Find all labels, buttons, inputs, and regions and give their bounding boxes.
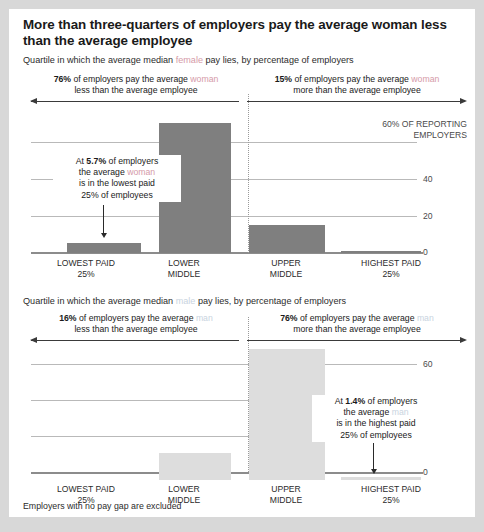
- panel-1-xlabel-highest-paid: HIGHEST PAID 25%: [339, 258, 443, 280]
- panel-1-left-arrow-caption: 76% of employers pay the average woman l…: [31, 74, 241, 96]
- panel-2-bar-lower-middle: [159, 453, 231, 480]
- panel-1-left-arrowhead-icon: [30, 98, 37, 104]
- panel-1-callout-l1-pre: At: [76, 156, 87, 166]
- panel-1-xlabel-highest-paid-l2: 25%: [339, 269, 443, 280]
- panel-2-right-arrow-line1: 76% of employers pay the average man: [247, 313, 467, 324]
- panel-1-bar-upper-middle: [249, 225, 325, 253]
- panel-2-caption-pre: Quartile in which the average median: [23, 296, 176, 306]
- panel-1-callout-l2-keyword: woman: [127, 167, 155, 177]
- panel-1-callout-line2: the average woman: [56, 167, 178, 178]
- panel-1-left-pct: 76%: [54, 74, 71, 84]
- panel-2-callout-line3: is in the highest paid: [315, 418, 437, 429]
- panel-2-left-rest: of employers pay the average: [77, 313, 196, 323]
- panel-2-left-keyword: man: [196, 313, 213, 323]
- panel-1-caption-post: pay lies, by percentage of employers: [203, 55, 354, 65]
- panel-1-left-keyword: woman: [190, 74, 218, 84]
- panel-1-left-rest: of employers pay the average: [71, 74, 190, 84]
- panel-1-right-arrow-caption: 15% of employers pay the average woman m…: [247, 74, 467, 96]
- panel-2-callout-l2-pre: the average: [343, 407, 391, 417]
- panel-1-bar-highest-paid: [341, 251, 421, 254]
- panel-1-callout-line4: 25% of employees: [56, 190, 178, 201]
- panel-1-right-arrow-line1: 15% of employers pay the average woman: [247, 74, 467, 85]
- panel-1-right-arrow-line: [247, 101, 461, 102]
- panel-1-right-rest: of employers pay the average: [292, 74, 411, 84]
- panel-2-bar-highest-paid: [341, 477, 421, 480]
- panel-2-ytick-0: 0: [423, 467, 428, 477]
- panel-1-xlabel-upper-middle-l2: MIDDLE: [241, 269, 331, 280]
- panel-2-xlabel-highest-paid-l1: HIGHEST PAID: [339, 484, 443, 495]
- panel-2-gridline-60: [31, 364, 417, 365]
- panel-1-xlabel-lower-middle-l2: MIDDLE: [139, 269, 229, 280]
- panel-2-right-arrow-line2: more than the average employee: [247, 324, 467, 335]
- panel-1-callout: At 5.7% of employers the average woman i…: [53, 155, 181, 202]
- panel-2-caption: Quartile in which the average median mal…: [23, 296, 469, 306]
- panel-2-callout: At 1.4% of employers the average man is …: [312, 395, 440, 442]
- panel-1-callout-l1-bold: 5.7%: [86, 156, 106, 166]
- page-title: More than three-quarters of employers pa…: [23, 17, 463, 48]
- panel-2-callout-line1: At 1.4% of employers: [315, 396, 437, 407]
- panel-2-right-pct: 76%: [280, 313, 297, 323]
- panel-1-ytick-0: 0: [423, 247, 428, 257]
- panel-2-callout-line2: the average man: [315, 407, 437, 418]
- panel-1-caption-keyword: female: [176, 55, 203, 65]
- panel-2-caption-post: pay lies, by percentage of employers: [195, 296, 346, 306]
- panel-2-xlabel-lowest-paid-l1: LOWEST PAID: [31, 484, 141, 495]
- panel-2-caption-keyword: male: [176, 296, 196, 306]
- panel-2-left-pct: 16%: [59, 313, 76, 323]
- panel-2-callout-arrow-line: [373, 443, 374, 470]
- panel-1-left-arrow-line: [31, 101, 239, 102]
- panel-1-callout-line1: At 5.7% of employers: [56, 156, 178, 167]
- panel-2-callout-arrowhead-icon: [371, 469, 377, 474]
- panel-2-left-arrow-line1: 16% of employers pay the average man: [31, 313, 241, 324]
- panel-2-left-arrow-caption: 16% of employers pay the average man les…: [31, 313, 241, 335]
- panel-2-xlabel-upper-middle: UPPER MIDDLE: [241, 484, 331, 506]
- panel-1-left-arrow-line1: 76% of employers pay the average woman: [31, 74, 241, 85]
- panel-2-callout-line4: 25% of employees: [315, 430, 437, 441]
- panel-1-xlabel-upper-middle-l1: UPPER: [241, 258, 331, 269]
- panel-1-xlabel-lowest-paid-l2: 25%: [31, 269, 141, 280]
- panel-1-callout-arrow-line: [103, 205, 104, 234]
- panel-2-callout-l1-pre: At: [335, 396, 346, 406]
- panel-1-right-arrow-line2: more than the average employee: [247, 85, 467, 96]
- panel-1-xlabel-lower-middle-l1: LOWER: [139, 258, 229, 269]
- chart-card: More than three-quarters of employers pa…: [9, 9, 475, 517]
- panel-1-right-pct: 15%: [275, 74, 292, 84]
- footnote: Employers with no pay gap are excluded: [23, 501, 181, 511]
- panel-1-caption-pre: Quartile in which the average median: [23, 55, 176, 65]
- panel-1-callout-arrowhead-icon: [101, 233, 107, 238]
- panel-1-xlabel-upper-middle: UPPER MIDDLE: [241, 258, 331, 280]
- panel-1-xlabel-highest-paid-l1: HIGHEST PAID: [339, 258, 443, 269]
- panel-1-right-arrowhead-icon: [460, 98, 467, 104]
- panel-2-right-arrow-caption: 76% of employers pay the average man mor…: [247, 313, 467, 335]
- panel-1-ytick-40: 40: [423, 174, 433, 184]
- panel-1-caption: Quartile in which the average median fem…: [23, 55, 469, 65]
- panel-2-right-arrowhead-icon: [460, 337, 467, 343]
- panel-2-ytick-60: 60: [423, 359, 433, 369]
- panel-1-xlabel-lowest-paid-l1: LOWEST PAID: [31, 258, 141, 269]
- panel-2-right-keyword: man: [417, 313, 434, 323]
- panel-2-left-arrow-line2: less than the average employee: [31, 324, 241, 335]
- panel-2-xlabel-upper-middle-l2: MIDDLE: [241, 495, 331, 506]
- panel-2-xlabel-highest-paid-l2: 25%: [339, 495, 443, 506]
- panel-2-callout-l2-keyword: man: [392, 407, 409, 417]
- panel-2-callout-l1-bold: 1.4%: [345, 396, 365, 406]
- panel-1-xlabel-lower-middle: LOWER MIDDLE: [139, 258, 229, 280]
- panel-1-callout-l1-post: of employers: [106, 156, 158, 166]
- panel-2-xlabel-lower-middle-l1: LOWER: [139, 484, 229, 495]
- panel-1-left-arrow-line2: less than the average employee: [31, 85, 241, 96]
- panel-1-ytick-20: 20: [423, 211, 433, 221]
- panel-1-bar-lowest-paid: [67, 243, 141, 253]
- panel-1-right-keyword: woman: [411, 74, 439, 84]
- panel-1-callout-l2-pre: the average: [79, 167, 127, 177]
- panel-1-xlabel-lowest-paid: LOWEST PAID 25%: [31, 258, 141, 280]
- panel-2-xlabel-highest-paid: HIGHEST PAID 25%: [339, 484, 443, 506]
- panel-2-callout-l1-post: of employers: [365, 396, 417, 406]
- panel-2-right-rest: of employers pay the average: [298, 313, 417, 323]
- panel-1-callout-line3: is in the lowest paid: [56, 178, 178, 189]
- panel-2-xlabel-upper-middle-l1: UPPER: [241, 484, 331, 495]
